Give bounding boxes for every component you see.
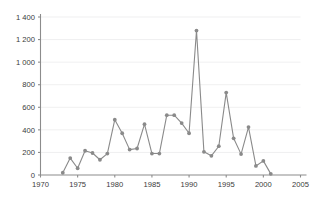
data-point — [187, 131, 191, 135]
data-point — [83, 149, 87, 153]
x-axis-tick-label: 1975 — [69, 180, 86, 189]
y-axis-tick-labels: 02004006008001 0001 2001 400 — [16, 13, 41, 180]
y-axis-tick-label: 1 400 — [16, 13, 35, 22]
x-axis-tick-label: 1995 — [218, 180, 235, 189]
data-point — [143, 122, 147, 126]
data-point — [105, 152, 109, 156]
data-point — [224, 91, 228, 95]
x-axis-tick-label: 1990 — [181, 180, 198, 189]
data-point — [217, 144, 221, 148]
data-point — [261, 159, 265, 163]
y-axis-tick-label: 200 — [22, 148, 35, 157]
data-point — [232, 136, 236, 140]
y-axis-tick-label: 1 000 — [16, 58, 35, 67]
y-axis-tick-label: 0 — [31, 171, 35, 180]
data-point — [209, 154, 213, 158]
data-point — [61, 171, 65, 175]
x-axis-tick-label: 2000 — [255, 180, 272, 189]
data-point — [180, 121, 184, 125]
x-axis-tick-labels: 19701975198019851990199520002005 — [32, 175, 309, 189]
data-point — [98, 158, 102, 162]
data-point — [239, 152, 243, 156]
data-point — [269, 172, 273, 176]
data-point — [247, 125, 251, 129]
y-axis-tick-label: 600 — [22, 103, 35, 112]
data-point — [157, 152, 161, 156]
data-point — [172, 113, 176, 117]
x-axis-tick-label: 2005 — [292, 180, 309, 189]
gridlines — [41, 17, 301, 152]
data-point — [135, 147, 139, 151]
data-point — [254, 164, 258, 168]
data-point — [113, 118, 117, 122]
line-chart: 02004006008001 0001 2001 400 19701975198… — [0, 0, 316, 208]
y-axis-tick-label: 1 200 — [16, 35, 35, 44]
y-axis-tick-label: 800 — [22, 80, 35, 89]
data-point — [202, 150, 206, 154]
data-point — [68, 156, 72, 160]
x-axis-tick-label: 1985 — [143, 180, 160, 189]
x-axis-tick-label: 1980 — [106, 180, 123, 189]
data-point — [195, 29, 199, 33]
data-point — [76, 166, 80, 170]
chart-canvas: 02004006008001 0001 2001 400 19701975198… — [0, 0, 316, 208]
y-axis-tick-label: 400 — [22, 126, 35, 135]
data-point — [165, 113, 169, 117]
x-axis-tick-label: 1970 — [32, 180, 49, 189]
data-point — [128, 148, 132, 152]
series-markers — [61, 29, 273, 176]
data-point — [91, 151, 95, 155]
data-point — [120, 131, 124, 135]
data-point — [150, 152, 154, 156]
